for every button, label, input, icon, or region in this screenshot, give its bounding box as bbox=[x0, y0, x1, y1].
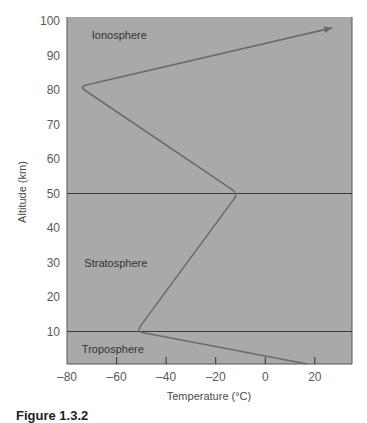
x-tick-label: –20 bbox=[206, 370, 226, 384]
plot-background bbox=[67, 17, 352, 364]
layer-label-troposphere: Troposphere bbox=[82, 343, 144, 355]
y-tick-label: 100 bbox=[40, 14, 60, 28]
x-tick-label: 20 bbox=[308, 370, 322, 384]
x-axis-title: Temperature (°C) bbox=[167, 390, 251, 402]
layer-label-ionosphere: Ionosphere bbox=[92, 29, 147, 41]
y-tick-label: 80 bbox=[47, 83, 61, 97]
x-tick-label: –80 bbox=[57, 370, 77, 384]
y-tick-label: 60 bbox=[47, 152, 61, 166]
x-tick-label: 0 bbox=[262, 370, 269, 384]
y-axis-title: Altitude (km) bbox=[16, 161, 28, 223]
x-tick-label: –40 bbox=[156, 370, 176, 384]
layer-label-stratosphere: Stratosphere bbox=[84, 257, 147, 269]
y-tick-label: 40 bbox=[47, 221, 61, 235]
y-tick-label: 20 bbox=[47, 290, 61, 304]
y-tick-label: 10 bbox=[47, 325, 61, 339]
y-tick-label: 50 bbox=[47, 187, 61, 201]
y-tick-label: 90 bbox=[47, 49, 61, 63]
figure-caption: Figure 1.3.2 bbox=[16, 408, 88, 423]
plot-area: IonosphereStratosphereTroposphere bbox=[67, 17, 352, 364]
y-tick-label: 70 bbox=[47, 118, 61, 132]
y-tick-label: 30 bbox=[47, 256, 61, 270]
x-tick-label: –60 bbox=[107, 370, 127, 384]
